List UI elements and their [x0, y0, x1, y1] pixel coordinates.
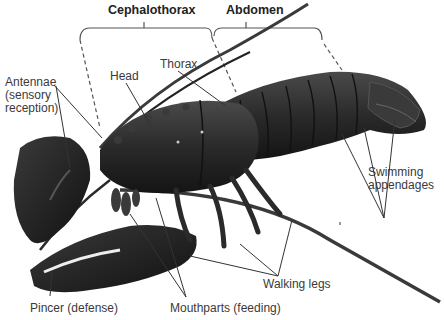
- group-label-abdomen: Abdomen: [226, 4, 284, 17]
- group-label-cephalothorax: Cephalothorax: [108, 4, 196, 17]
- label-thorax: Thorax: [160, 58, 197, 71]
- mouthparts-drawing: [111, 188, 140, 216]
- label-antennae: Antennae (sensory reception): [5, 76, 58, 115]
- label-mouthparts: Mouthparts (feeding): [170, 302, 281, 315]
- label-swimming-appendages: Swimming appendages: [368, 166, 434, 192]
- abdomen-bracket: [214, 22, 342, 70]
- lobster-illustration: [0, 0, 444, 320]
- label-pincer: Pincer (defense): [30, 302, 118, 315]
- label-head: Head: [110, 70, 139, 83]
- label-walking-legs: Walking legs: [263, 278, 331, 291]
